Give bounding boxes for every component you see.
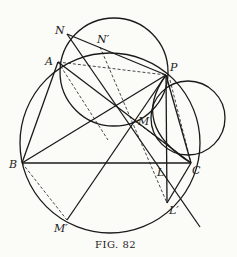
label-a: A bbox=[44, 55, 53, 68]
geometry-figure: N N′ A P M B L C L′ M′ FIG. 82 bbox=[0, 0, 237, 257]
dash-bm-prime bbox=[22, 163, 67, 220]
label-m: M bbox=[137, 115, 150, 128]
figure-caption: FIG. 82 bbox=[95, 239, 136, 250]
dash-n-prime-l-prime bbox=[100, 47, 167, 203]
arc-pmc bbox=[153, 75, 191, 163]
dash-a-diag bbox=[58, 62, 108, 140]
label-p: P bbox=[169, 61, 178, 74]
label-c: C bbox=[192, 164, 201, 177]
label-l-prime: L′ bbox=[168, 204, 179, 217]
line-ab bbox=[22, 62, 58, 163]
label-l: L bbox=[156, 166, 164, 179]
label-m-prime: M′ bbox=[53, 222, 68, 235]
small-circle bbox=[151, 81, 225, 155]
line-pm-prime bbox=[67, 75, 166, 220]
line-nm bbox=[67, 34, 200, 227]
label-b: B bbox=[8, 158, 17, 171]
label-n: N bbox=[54, 24, 65, 37]
line-pl bbox=[166, 75, 167, 203]
label-n-prime: N′ bbox=[96, 33, 110, 46]
